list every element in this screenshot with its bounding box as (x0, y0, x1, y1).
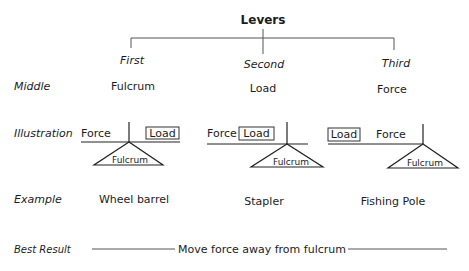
load-label: Load (243, 127, 269, 140)
illustration-first-class: Force Load Fulcrum (81, 122, 180, 165)
best-result-text: Move force away from fulcrum (178, 243, 346, 256)
load-label: Load (149, 127, 175, 140)
middle-third: Force (377, 83, 407, 96)
force-label: Force (207, 127, 237, 140)
illustration-third-class: Load Force Fulcrum (328, 124, 458, 168)
force-label: Force (81, 127, 111, 140)
levers-diagram: Levers First Second Third Middle Fulcrum… (0, 0, 469, 271)
fulcrum-label: Fulcrum (407, 158, 443, 168)
class-third-heading: Third (382, 57, 411, 70)
example-third: Fishing Pole (361, 195, 426, 208)
illustration-second-class: Force Load Fulcrum (207, 122, 323, 167)
example-second: Stapler (244, 195, 284, 208)
row-label-best-result: Best Result (14, 244, 72, 255)
row-label-example: Example (14, 193, 62, 206)
class-first-heading: First (120, 54, 145, 67)
middle-first: Fulcrum (111, 80, 155, 93)
tree-connectors (131, 29, 394, 54)
load-label: Load (331, 128, 357, 141)
class-second-heading: Second (244, 58, 285, 71)
fulcrum-label: Fulcrum (273, 157, 309, 167)
diagram-title: Levers (241, 13, 286, 27)
middle-second: Load (250, 82, 276, 95)
force-label: Force (376, 128, 406, 141)
example-first: Wheel barrel (99, 193, 169, 206)
row-label-middle: Middle (14, 80, 51, 93)
row-label-illustration: Illustration (14, 127, 73, 140)
fulcrum-label: Fulcrum (112, 155, 148, 165)
